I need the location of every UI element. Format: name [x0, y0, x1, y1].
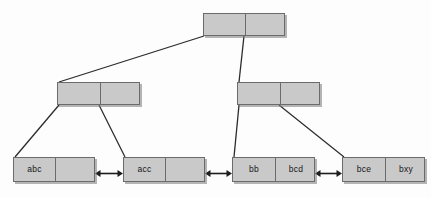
edge-internal-left-to-leaf-acc — [99, 105, 125, 157]
edge-root-to-internal-right — [239, 36, 244, 82]
internal-node-internal-left — [57, 82, 140, 105]
leaf-node-leaf-abc: abc — [13, 157, 95, 182]
node-cell-leaf-acc-1 — [165, 158, 206, 181]
node-cell-internal-left-1 — [100, 83, 141, 104]
node-cell-internal-right-1 — [280, 83, 321, 104]
edge-internal-right-to-leaf-bb — [234, 105, 239, 157]
node-cell-root-0 — [204, 14, 245, 35]
node-cell-leaf-bce-bxy-1: bxy — [385, 158, 426, 181]
leaf-node-leaf-bb-bcd: bbbcd — [232, 157, 315, 182]
b-plus-tree-diagram: abcaccbbbcdbcebxy — [0, 0, 431, 197]
leaf-node-leaf-bce-bxy: bcebxy — [342, 157, 425, 182]
node-cell-internal-left-0 — [58, 83, 100, 104]
node-cell-leaf-abc-0: abc — [14, 158, 55, 181]
root-node-root — [203, 13, 285, 36]
node-cell-leaf-bb-bcd-0: bb — [233, 158, 275, 181]
node-cell-internal-right-0 — [238, 83, 280, 104]
edge-internal-left-to-leaf-abc — [15, 105, 59, 157]
leaf-node-leaf-acc: acc — [123, 157, 205, 182]
node-cell-leaf-acc-0: acc — [124, 158, 165, 181]
node-cell-leaf-abc-1 — [55, 158, 96, 181]
edge-root-to-internal-left — [59, 36, 204, 82]
internal-node-internal-right — [237, 82, 320, 105]
node-cell-leaf-bb-bcd-1: bcd — [275, 158, 316, 181]
node-cell-leaf-bce-bxy-0: bce — [343, 158, 385, 181]
edge-internal-right-to-leaf-bce — [279, 105, 344, 157]
node-cell-root-1 — [245, 14, 286, 35]
